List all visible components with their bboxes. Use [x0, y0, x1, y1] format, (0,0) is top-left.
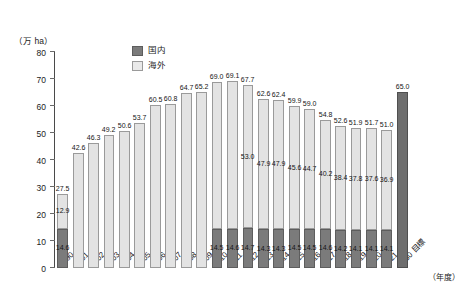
- bar-segment-overseas: 44.7: [304, 109, 315, 229]
- bar-segment-domestic: 14.5: [212, 229, 223, 268]
- bar-segment-overseas: [119, 131, 130, 268]
- bar-column[interactable]: 65.0: [397, 52, 408, 268]
- bar-total-label: 49.2: [96, 126, 123, 133]
- bar-value-domestic: 14.5: [207, 244, 228, 251]
- y-axis-tick-label: 40: [37, 157, 46, 166]
- bar-total-label: 65.0: [389, 84, 416, 91]
- bar-total-label: 60.5: [142, 96, 169, 103]
- legend-label-domestic: 国内: [148, 46, 166, 55]
- bar-segment-overseas: [165, 104, 176, 268]
- bar-column[interactable]: 14.544.759.0: [304, 52, 315, 268]
- bar-segment-overseas: [212, 82, 223, 229]
- bar-segment-overseas: 45.6: [289, 106, 300, 229]
- bar-segment-overseas: 37.6: [366, 128, 377, 230]
- bar-column[interactable]: 64.7: [181, 52, 192, 268]
- bar-segment-domestic: 14.1: [351, 230, 362, 268]
- bar-segment-domestic: 14.6: [320, 229, 331, 268]
- legend-label-overseas: 海外: [148, 61, 166, 70]
- bar-column[interactable]: 14.753.067.7: [243, 52, 254, 268]
- bar-column[interactable]: 46.3: [88, 52, 99, 268]
- bar-segment-overseas: 37.8: [351, 128, 362, 230]
- bar-segment-goal: [397, 93, 408, 269]
- bar-segment-overseas: 36.9: [381, 130, 392, 230]
- bar-segment-overseas: 40.2: [320, 120, 331, 229]
- legend-item-domestic: 国内: [132, 44, 166, 57]
- bar-total-label: 62.6: [250, 90, 277, 97]
- plot-area: 01020304050607080 65.014.136.951.014.137…: [55, 52, 410, 268]
- y-axis-tick-label: 10: [37, 238, 46, 247]
- bar-column[interactable]: 14.545.659.9: [289, 52, 300, 268]
- legend-swatch-overseas: [132, 61, 143, 71]
- y-axis-tick-label: 50: [37, 130, 46, 139]
- bar-segment-overseas: 38.4: [335, 126, 346, 230]
- bar-column[interactable]: 14.136.951.0: [381, 52, 392, 268]
- bar-value-domestic: 14.6: [52, 244, 73, 251]
- bar-segment-overseas: 47.9: [273, 100, 284, 230]
- category-axis: 2030 目標202120202019201820172016201520142…: [55, 268, 410, 294]
- rotated-figure-wrapper: （年度） 2030 目標2021202020192018201720162015…: [0, 0, 462, 294]
- bar-value-overseas: 12.9: [52, 207, 73, 214]
- bar-segment-domestic: 14.7: [243, 228, 254, 268]
- bar-total-label: 69.0: [204, 73, 231, 80]
- bar-segment-overseas: 53.0: [243, 85, 254, 228]
- bar-column[interactable]: 14.612.927.5: [57, 52, 68, 268]
- y-axis-tick-label: 20: [37, 211, 46, 220]
- bar-column[interactable]: 14.347.962.4: [273, 52, 284, 268]
- bar-total-label: 64.7: [173, 84, 200, 91]
- bar-column[interactable]: 14.137.651.7: [366, 52, 377, 268]
- y-axis-tick-label: 80: [37, 49, 46, 58]
- bar-segment-domestic: 14.6: [227, 229, 238, 268]
- bar-column[interactable]: 14.137.851.9: [351, 52, 362, 268]
- axis-note-year: （年度）: [428, 271, 460, 282]
- bar-total-label: 52.6: [327, 117, 354, 124]
- chart-legend: 国内 海外: [132, 44, 166, 74]
- bar-value-overseas: 53.0: [238, 153, 259, 160]
- bar-total-label: 59.9: [281, 97, 308, 104]
- bar-total-label: 46.3: [80, 134, 107, 141]
- bar-column[interactable]: 14.640.254.8: [320, 52, 331, 268]
- legend-item-overseas: 海外: [132, 59, 166, 72]
- bar-segment-overseas: [104, 135, 115, 268]
- bar-segment-domestic: 14.6: [57, 229, 68, 268]
- bar-segment-domestic: 14.3: [273, 229, 284, 268]
- bar-column[interactable]: 14.238.452.6: [335, 52, 346, 268]
- bar-segment-overseas: [227, 81, 238, 228]
- bar-total-label: 54.8: [312, 111, 339, 118]
- bar-column[interactable]: 50.6: [119, 52, 130, 268]
- bar-segment-overseas: [88, 143, 99, 268]
- y-axis-unit-label: （万 ha）: [14, 34, 53, 46]
- bar-column[interactable]: 60.5: [150, 52, 161, 268]
- bar-segment-overseas: 12.9: [57, 194, 68, 229]
- bar-column[interactable]: 60.8: [165, 52, 176, 268]
- bar-segment-overseas: [150, 105, 161, 268]
- y-axis-tick-label: 30: [37, 184, 46, 193]
- bar-segment-overseas: 47.9: [258, 99, 269, 229]
- bar-segment-domestic: 14.1: [381, 230, 392, 268]
- bar-segment-overseas: [181, 93, 192, 268]
- bar-segment-domestic: 14.5: [289, 229, 300, 268]
- bar-column[interactable]: 14.347.962.6: [258, 52, 269, 268]
- bar-column[interactable]: 49.2: [104, 52, 115, 268]
- y-axis-tick-label: 0: [41, 265, 46, 274]
- bar-value-overseas: 47.9: [253, 160, 274, 167]
- bar-segment-domestic: 14.3: [258, 229, 269, 268]
- bar-segment-domestic: 14.1: [366, 230, 377, 268]
- bar-series-group: 65.014.136.951.014.137.651.714.137.851.9…: [55, 52, 410, 268]
- legend-swatch-domestic: [132, 46, 143, 56]
- bar-segment-domestic: 14.2: [335, 230, 346, 268]
- chart-figure: （年度） 2030 目標2021202020192018201720162015…: [0, 0, 462, 294]
- bar-segment-overseas: [135, 123, 146, 268]
- bar-segment-overseas: [196, 92, 207, 268]
- bar-total-label: 53.7: [127, 114, 154, 121]
- bar-column[interactable]: 53.7: [135, 52, 146, 268]
- bar-total-label: 27.5: [49, 185, 76, 192]
- y-axis-tick-label: 60: [37, 103, 46, 112]
- bar-column[interactable]: 42.6: [73, 52, 84, 268]
- bar-column[interactable]: 14.669.1: [227, 52, 238, 268]
- bar-segment-domestic: 14.5: [304, 229, 315, 268]
- y-axis-tick-label: 70: [37, 76, 46, 85]
- bar-segment-overseas: [73, 153, 84, 268]
- bar-total-label: 42.6: [65, 144, 92, 151]
